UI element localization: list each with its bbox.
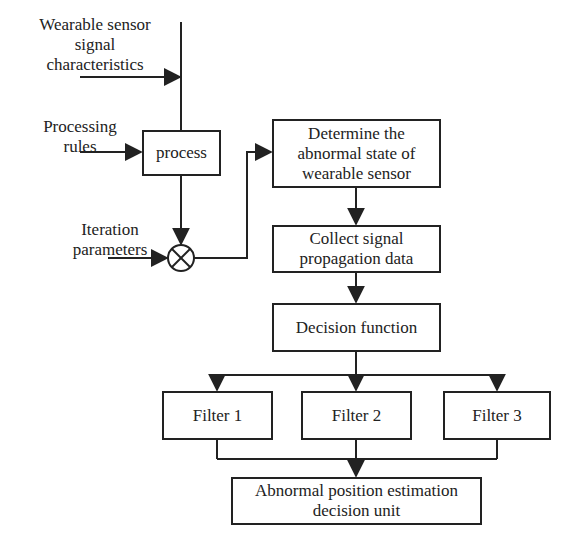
filter-label: Filter 3 xyxy=(472,406,522,426)
filter-label: Filter 1 xyxy=(193,406,243,426)
connector-lines xyxy=(0,0,578,548)
label-line: Determine the xyxy=(297,124,415,144)
label-line: signal xyxy=(10,35,180,55)
label-line: decision unit xyxy=(255,501,458,521)
filter-1-box: Filter 1 xyxy=(162,391,273,440)
abnormal-position-decision-unit-box: Abnormal position estimation decision un… xyxy=(231,477,482,525)
label-line: Iteration xyxy=(60,220,160,240)
decision-label: Decision function xyxy=(296,318,417,338)
label-line: Abnormal position estimation xyxy=(255,481,458,501)
input-iteration-parameters: Iteration parameters xyxy=(60,220,160,260)
filter-label: Filter 2 xyxy=(332,406,382,426)
decision-function-box: Decision function xyxy=(272,303,441,352)
filter-2-box: Filter 2 xyxy=(301,391,412,440)
collect-signal-data-box: Collect signal propagation data xyxy=(272,225,441,273)
label-line: wearable sensor xyxy=(297,164,415,184)
label-line: propagation data xyxy=(300,249,414,269)
input-signal-characteristics: Wearable sensor signal characteristics xyxy=(10,15,180,75)
process-label: process xyxy=(156,143,207,163)
label-line: parameters xyxy=(60,240,160,260)
label-line: abnormal state of xyxy=(297,144,415,164)
label-line: Processing xyxy=(30,117,130,137)
process-box: process xyxy=(142,130,221,176)
determine-abnormal-state-box: Determine the abnormal state of wearable… xyxy=(272,119,441,188)
input-processing-rules: Processing rules xyxy=(30,117,130,157)
filter-3-box: Filter 3 xyxy=(443,391,551,440)
label-line: Collect signal xyxy=(300,229,414,249)
label-line: characteristics xyxy=(10,55,180,75)
label-line: Wearable sensor xyxy=(10,15,180,35)
label-line: rules xyxy=(30,137,130,157)
